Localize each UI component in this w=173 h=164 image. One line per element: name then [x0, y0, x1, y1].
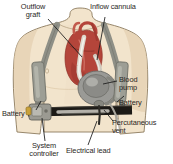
label-system-controller: System controller: [18, 142, 70, 158]
label-blood-pump: Blood pump: [119, 76, 169, 92]
label-electrical-lead: Electrical lead: [66, 147, 128, 155]
system-controller-indicator: [44, 109, 48, 113]
label-outflow-graft: Outflow graft: [11, 3, 55, 19]
label-battery-right: Battery: [119, 99, 169, 107]
blood-pump-rotor: [83, 75, 109, 98]
vad-system-diagram: Outflow graft Inflow cannula Blood pump …: [0, 0, 173, 164]
label-inflow-cannula: Inflow cannula: [90, 3, 160, 11]
blood-pump-highlight: [86, 78, 98, 87]
label-percutaneous-vent: Percutaneous vent: [112, 119, 173, 135]
label-battery-left: Battery: [2, 110, 40, 118]
belt-inner-shadow: [62, 113, 104, 114]
electrical-lead-cable: [99, 106, 100, 124]
battery-left: [32, 62, 47, 103]
